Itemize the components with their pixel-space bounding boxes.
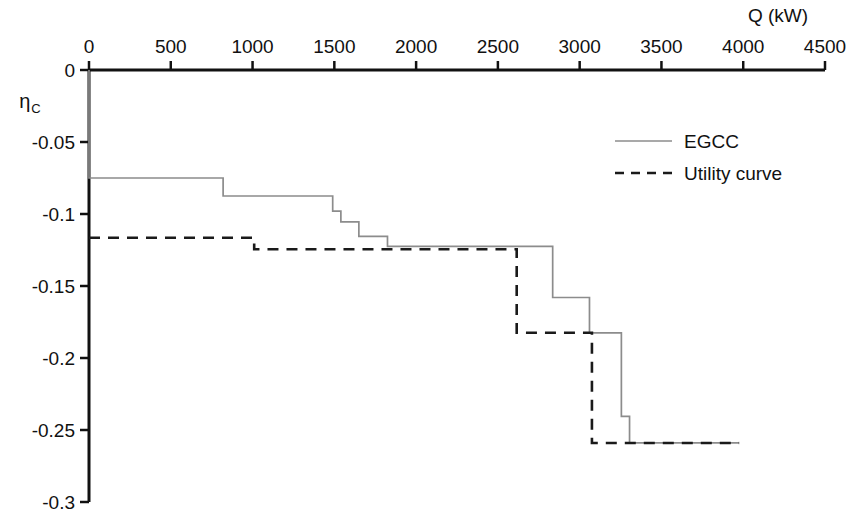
x-tick-label: 1000: [231, 36, 273, 57]
x-tick-label: 1500: [313, 36, 355, 57]
y-tick-label: -0.1: [42, 204, 75, 225]
x-tick-label: 2000: [395, 36, 437, 57]
y-tick-label: -0.2: [42, 348, 75, 369]
y-tick-label: -0.3: [42, 492, 75, 513]
legend-label-egcc: EGCC: [684, 131, 739, 152]
series-line-egcc: [89, 70, 739, 443]
y-tick-label: -0.05: [32, 132, 75, 153]
chart-canvas: 0500100015002000250030003500400045000-0.…: [0, 0, 855, 527]
x-tick-label: 3500: [640, 36, 682, 57]
y-tick-label: 0: [64, 60, 75, 81]
x-tick-label: 0: [84, 36, 95, 57]
legend-label-utility-curve: Utility curve: [684, 163, 782, 184]
chart-figure: 0500100015002000250030003500400045000-0.…: [0, 0, 855, 527]
y-tick-label: -0.15: [32, 276, 75, 297]
y-axis-title: ηC: [19, 90, 41, 116]
series-line-utility-curve: [89, 238, 739, 443]
x-tick-label: 4000: [722, 36, 764, 57]
y-tick-label: -0.25: [32, 420, 75, 441]
x-axis-title: Q (kW): [748, 5, 808, 26]
x-tick-label: 2500: [477, 36, 519, 57]
x-tick-label: 500: [155, 36, 187, 57]
x-tick-label: 4500: [804, 36, 846, 57]
x-tick-label: 3000: [559, 36, 601, 57]
